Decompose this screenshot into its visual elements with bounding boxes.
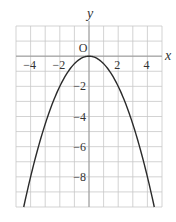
axes: [16, 21, 162, 207]
x-axis-label: x: [164, 48, 172, 63]
y-tick-label: −2: [73, 79, 86, 93]
y-axis-label: y: [85, 6, 94, 21]
y-tick-label: −8: [73, 170, 86, 184]
parabola-chart: y x O −4−224 −2−4−6−8: [0, 0, 176, 222]
origin-label: O: [79, 41, 88, 55]
x-tick-label: 2: [114, 58, 120, 72]
x-tick-labels: −4−224: [23, 58, 149, 72]
y-tick-label: −4: [73, 110, 86, 124]
x-tick-label: 4: [143, 58, 149, 72]
x-tick-label: −4: [23, 58, 36, 72]
y-tick-label: −6: [73, 140, 86, 154]
x-tick-label: −2: [52, 58, 65, 72]
